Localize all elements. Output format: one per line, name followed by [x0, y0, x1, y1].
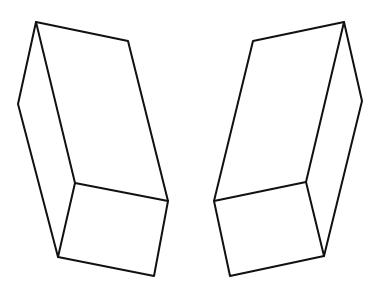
left-box-outline — [18, 22, 168, 276]
box-edge — [214, 182, 306, 201]
boxes-drawing — [0, 0, 391, 298]
box-edge — [306, 182, 324, 256]
box-edge — [36, 22, 75, 183]
box-edge — [306, 22, 344, 182]
diagram-canvas — [0, 0, 391, 298]
right-box-inner-edges — [214, 22, 344, 256]
box-edge — [58, 183, 75, 257]
right-box-outline — [214, 22, 362, 276]
right-box — [214, 22, 362, 276]
box-edge — [75, 183, 168, 201]
left-box — [18, 22, 168, 276]
left-box-inner-edges — [36, 22, 168, 257]
